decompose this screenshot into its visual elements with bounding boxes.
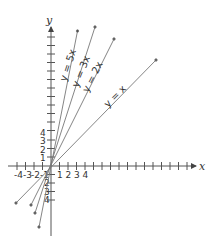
x-tick-label: 1 bbox=[57, 170, 63, 180]
x-tick-label: 3 bbox=[74, 170, 80, 180]
x-tick-label: -4 bbox=[14, 170, 23, 180]
x-tick-label: -2 bbox=[31, 170, 40, 180]
coordinate-plane: x -4 -3 -2 -1 1 2 3 4 y 4 3 2 1 2 3 4 bbox=[0, 0, 218, 241]
y-axis-label: y bbox=[45, 14, 53, 27]
x-axis-label: x bbox=[199, 160, 206, 173]
label-y-x: y = x bbox=[102, 83, 129, 110]
y-tick-label: 1 bbox=[40, 153, 46, 163]
x-tick-label: 4 bbox=[83, 170, 89, 180]
x-axis: x -4 -3 -2 -1 1 2 3 4 bbox=[8, 160, 206, 180]
y-axis: y 4 3 2 1 2 3 4 bbox=[40, 14, 55, 236]
x-tick-label: 2 bbox=[66, 170, 72, 180]
